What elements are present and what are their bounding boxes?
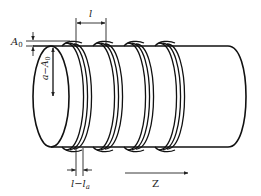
ring-edge (159, 43, 177, 150)
period-label: l (89, 8, 92, 19)
z-axis-label: Z (152, 178, 159, 189)
ring-edge (128, 43, 146, 150)
cylinder-body (33, 46, 246, 147)
amplitude-dimension: A0 (10, 32, 70, 56)
amplitude-label: A0 (10, 36, 23, 49)
z-axis: Z (125, 173, 188, 189)
period-dimension: l (76, 8, 106, 44)
ring (93, 41, 123, 151)
inner-radius-dimension: a−A0 (40, 48, 53, 96)
corrugated-cylinder-diagram: A0 a−A0 l l−la Z (0, 0, 261, 196)
ring (124, 41, 154, 151)
ring (62, 41, 92, 151)
ring-edge (97, 43, 115, 150)
gap-dimension: l−la (67, 148, 92, 191)
ring (155, 41, 185, 151)
inner-radius-label: a−A0 (40, 56, 52, 80)
gap-label: l−la (71, 178, 90, 191)
right-end-face (228, 46, 246, 147)
rings (62, 41, 185, 151)
